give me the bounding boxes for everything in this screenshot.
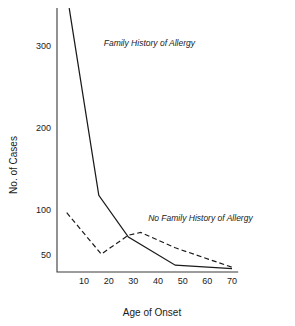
x-tick-label: 10 (79, 276, 89, 286)
y-tick-label: 100 (36, 205, 51, 215)
x-tick-label: 60 (202, 276, 212, 286)
x-tick-label: 70 (227, 276, 237, 286)
x-tick-label: 20 (104, 276, 114, 286)
y-tick-label: 300 (36, 41, 51, 51)
x-axis-title: Age of Onset (123, 307, 182, 318)
chart-container: 50100200300 10203040506070 Family Histor… (0, 0, 295, 326)
x-tick-label: 30 (128, 276, 138, 286)
y-tick-label: 200 (36, 123, 51, 133)
x-tick-label: 50 (178, 276, 188, 286)
x-axis-tick-labels: 10203040506070 (79, 276, 237, 286)
y-tick-label: 50 (41, 250, 51, 260)
x-tick-label: 40 (153, 276, 163, 286)
series-annotation-label: No Family History of Allergy (148, 213, 253, 223)
y-axis-tick-labels: 50100200300 (36, 41, 51, 260)
series-annotations: Family History of AllergyNo Family Histo… (104, 38, 254, 223)
y-axis-title: No. of Cases (8, 136, 19, 194)
line-chart: 50100200300 10203040506070 Family Histor… (0, 0, 295, 326)
series-annotation-label: Family History of Allergy (104, 38, 196, 48)
